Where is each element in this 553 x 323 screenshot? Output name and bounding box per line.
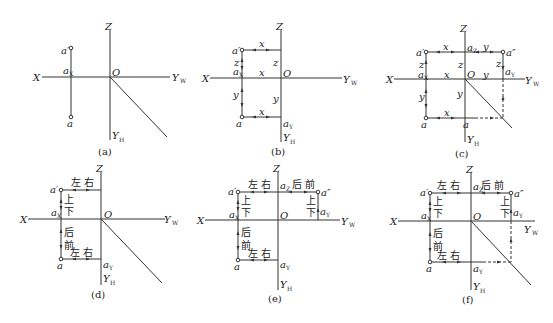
- svg-text:Y: Y: [325, 211, 331, 218]
- svg-text:x: x: [259, 67, 265, 78]
- svg-text:a: a: [234, 261, 240, 272]
- svg-text:a: a: [236, 118, 242, 129]
- axis-z-label: Z: [104, 21, 113, 32]
- svg-text:W: W: [180, 77, 187, 84]
- panel-d: Z X O Y W Y H a′ a X a a Y 左 右 上 下 后 前 左…: [19, 163, 179, 300]
- svg-text:z: z: [457, 59, 464, 70]
- svg-text:上: 上: [64, 194, 74, 205]
- svg-text:y: y: [482, 69, 489, 80]
- svg-text:X: X: [235, 214, 240, 221]
- svg-text:Y: Y: [341, 216, 349, 227]
- origin-label: O: [112, 67, 120, 78]
- panel-a: Z X O Y W Y H a′ a X a (a): [32, 21, 187, 157]
- svg-text:y: y: [456, 88, 463, 99]
- svg-text:x: x: [259, 38, 265, 49]
- svg-text:X: X: [389, 216, 398, 227]
- svg-text:上: 上: [241, 195, 251, 206]
- svg-text:O: O: [104, 209, 112, 220]
- svg-text:Y: Y: [108, 264, 114, 271]
- svg-text:y: y: [418, 91, 425, 102]
- axis-x-label: X: [32, 72, 41, 83]
- svg-text:Z: Z: [459, 23, 468, 34]
- svg-text:左 右: 左 右: [71, 176, 94, 188]
- svg-text:Z: Z: [286, 185, 290, 192]
- svg-text:下: 下: [500, 208, 510, 219]
- svg-text:a′: a′: [420, 187, 429, 198]
- svg-text:x: x: [444, 107, 450, 118]
- svg-text:下: 下: [433, 208, 443, 219]
- svg-text:X: X: [196, 215, 205, 226]
- svg-text:下: 下: [306, 207, 316, 218]
- svg-text:O: O: [467, 69, 475, 80]
- svg-text:X: X: [201, 73, 210, 84]
- svg-text:X: X: [424, 74, 429, 81]
- label-a-prime: a′: [61, 45, 70, 56]
- svg-text:a′: a′: [228, 186, 237, 197]
- svg-text:左 右: 左 右: [437, 249, 460, 261]
- svg-text:a″: a″: [321, 187, 331, 198]
- svg-text:a: a: [463, 119, 469, 130]
- svg-text:z: z: [495, 58, 502, 69]
- svg-text:后: 后: [64, 227, 74, 238]
- svg-text:a″: a″: [514, 188, 524, 199]
- svg-text:W: W: [351, 79, 358, 86]
- projection-diagram: Z X O Y W Y H a′ a X a (a) Z X O Y W Y H: [0, 0, 553, 323]
- svg-text:Y: Y: [524, 224, 532, 235]
- svg-text:x: x: [444, 69, 450, 80]
- svg-text:后 前: 后 前: [481, 179, 504, 191]
- svg-text:z: z: [272, 57, 279, 68]
- panel-e: Z X O Y W Y H a′ a″ a X a Z a Y a Y a 左 …: [196, 163, 356, 304]
- svg-text:Z: Z: [465, 164, 474, 175]
- svg-text:O: O: [473, 211, 481, 222]
- svg-text:x: x: [259, 106, 265, 117]
- svg-text:z: z: [233, 57, 240, 68]
- panel-f: Z X O Y W Y H a′ a″ a X a Z a Y a Y a 左 …: [389, 164, 539, 305]
- svg-text:H: H: [119, 136, 124, 143]
- svg-text:左 右: 左 右: [248, 247, 271, 259]
- point-a-prime: [240, 48, 244, 52]
- svg-text:a: a: [57, 260, 63, 271]
- svg-text:O: O: [280, 210, 288, 221]
- svg-text:H: H: [287, 285, 292, 292]
- svg-text:左 右: 左 右: [437, 179, 460, 191]
- svg-text:Y: Y: [525, 75, 533, 86]
- svg-text:上: 上: [306, 195, 316, 206]
- svg-text:X: X: [19, 214, 28, 225]
- svg-text:a′: a′: [50, 184, 59, 195]
- svg-text:Z: Z: [272, 163, 281, 174]
- svg-text:X: X: [427, 215, 432, 222]
- svg-text:O: O: [283, 68, 291, 79]
- svg-text:a: a: [426, 263, 432, 274]
- svg-text:a′: a′: [232, 45, 241, 56]
- svg-text:W: W: [349, 221, 356, 228]
- svg-text:H: H: [480, 287, 485, 294]
- panel-b: Z X O Y W Y H a′ a X a a Y x x x z z y y…: [201, 21, 358, 157]
- svg-text:y: y: [232, 89, 239, 100]
- svg-text:H: H: [474, 140, 479, 147]
- svg-text:X: X: [57, 212, 62, 219]
- svg-text:左 右: 左 右: [70, 246, 93, 258]
- axis-yw-label: Y: [172, 72, 180, 83]
- point-a-prime: [69, 46, 73, 50]
- svg-text:z: z: [418, 59, 425, 70]
- panel-c: Z X O Y W Y H a′ a″ a X a Z a Y a a x x …: [385, 23, 540, 159]
- caption-a: (a): [98, 146, 112, 157]
- svg-text:y: y: [272, 93, 279, 104]
- svg-text:Y: Y: [510, 71, 516, 78]
- svg-text:W: W: [172, 219, 179, 226]
- svg-text:Y: Y: [518, 212, 524, 219]
- svg-text:y: y: [482, 41, 489, 52]
- svg-text:X: X: [385, 74, 394, 85]
- svg-text:H: H: [110, 279, 115, 286]
- svg-text:(c): (c): [455, 148, 469, 159]
- svg-text:Z: Z: [473, 47, 477, 54]
- svg-text:左 右: 左 右: [248, 178, 271, 190]
- svg-text:Z: Z: [275, 21, 284, 32]
- svg-text:Y: Y: [288, 123, 294, 130]
- svg-text:a: a: [421, 119, 427, 130]
- svg-text:Y: Y: [343, 74, 351, 85]
- svg-text:(e): (e): [268, 293, 282, 304]
- svg-text:(d): (d): [91, 289, 105, 300]
- label-a: a: [67, 118, 73, 129]
- svg-text:Z: Z: [95, 163, 104, 174]
